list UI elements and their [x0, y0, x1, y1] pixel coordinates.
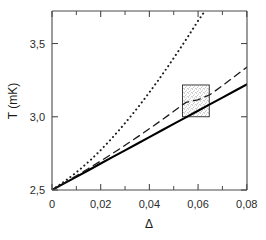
x-tick-label-1: 0,02: [90, 198, 111, 210]
figure-container: 00,020,040,060,08 2,53,03,5 Δ T (mK): [0, 0, 266, 240]
y-tick-label-1: 3,0: [30, 111, 45, 123]
x-tick-label-2: 0,04: [139, 198, 160, 210]
x-tick-label-0: 0: [49, 198, 55, 210]
x-axis-title: Δ: [145, 217, 153, 231]
y-tick-label-0: 2,5: [30, 184, 45, 196]
chart-plot: 00,020,040,060,08 2,53,03,5 Δ T (mK): [0, 0, 266, 240]
y-axis-title: T (mK): [6, 83, 20, 119]
x-tick-label-4: 0,08: [236, 198, 257, 210]
y-tick-label-2: 3,5: [30, 38, 45, 50]
x-tick-label-3: 0,06: [187, 198, 208, 210]
